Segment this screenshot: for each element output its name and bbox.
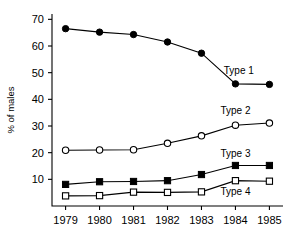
y-tick-label: 70 [32, 13, 44, 25]
data-point-marker [198, 171, 204, 177]
chart-canvas: % of males 10203040506070 19791980198119… [0, 0, 291, 244]
data-point-marker [62, 147, 68, 153]
y-tick-label: 30 [32, 120, 44, 132]
data-point-marker [232, 81, 238, 87]
data-point-marker [130, 147, 136, 153]
y-axis-title-label: % of males [5, 86, 16, 133]
x-axis-ticks: 1979198019811982198319841985 [53, 206, 281, 226]
data-point-marker [96, 29, 102, 35]
y-tick-label: 10 [32, 173, 44, 185]
data-point-marker [130, 189, 136, 195]
y-tick-label: 60 [32, 40, 44, 52]
data-point-marker [266, 162, 272, 168]
data-point-marker [96, 193, 102, 199]
x-tick-label: 1984 [223, 214, 247, 226]
x-tick-label: 1980 [87, 214, 111, 226]
data-point-marker [164, 39, 170, 45]
x-tick-label: 1982 [155, 214, 179, 226]
data-point-marker [130, 31, 136, 37]
data-point-marker [96, 179, 102, 185]
data-point-marker [198, 133, 204, 139]
data-point-marker [198, 50, 204, 56]
y-tick-label: 20 [32, 147, 44, 159]
x-tick-label: 1979 [53, 214, 77, 226]
data-point-marker [198, 189, 204, 195]
data-point-marker [164, 140, 170, 146]
data-point-marker [232, 178, 238, 184]
x-tick-label: 1981 [121, 214, 145, 226]
data-point-marker [232, 162, 238, 168]
data-point-marker [164, 178, 170, 184]
data-point-marker [266, 81, 272, 87]
data-point-marker [62, 181, 68, 187]
x-tick-label: 1985 [257, 214, 281, 226]
series-label: Type 3 [220, 148, 250, 159]
data-point-marker [164, 189, 170, 195]
data-point-marker [266, 178, 272, 184]
data-point-marker [62, 25, 68, 31]
data-point-marker [130, 178, 136, 184]
data-point-marker [62, 193, 68, 199]
y-axis-title: % of males [5, 86, 16, 133]
y-axis-ticks: 10203040506070 [32, 13, 52, 185]
y-tick-label: 40 [32, 93, 44, 105]
y-tick-label: 50 [32, 67, 44, 79]
data-point-marker [232, 122, 238, 128]
series-label: Type 1 [224, 65, 254, 76]
data-point-marker [96, 147, 102, 153]
line-chart: % of males 10203040506070 19791980198119… [0, 0, 291, 244]
series-label: Type 4 [220, 186, 250, 197]
series-label: Type 2 [220, 105, 250, 116]
data-point-marker [266, 120, 272, 126]
x-tick-label: 1983 [189, 214, 213, 226]
series-line [66, 29, 270, 85]
